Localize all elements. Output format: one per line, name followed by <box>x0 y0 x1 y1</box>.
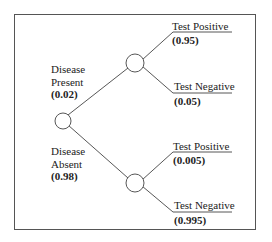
branch-lower-negative-line <box>142 186 173 212</box>
disease-present-line1: Disease <box>51 63 85 76</box>
lower-test-positive-label: Test Positive <box>173 140 229 153</box>
upper-test-negative-label: Test Negative <box>174 80 235 93</box>
upper-test-positive-probability: (0.95) <box>172 34 199 47</box>
disease-absent-line2: Absent <box>51 158 85 171</box>
lower-test-positive-probability: (0.005) <box>173 154 205 167</box>
disease-absent-line1: Disease <box>51 145 85 158</box>
disease-absent-probability: (0.98) <box>51 170 78 182</box>
upper-test-positive-label: Test Positive <box>172 20 228 33</box>
disease-absent-node <box>126 174 144 192</box>
disease-absent-label: Disease Absent (0.98) <box>51 145 85 183</box>
upper-test-positive-probability-value: (0.95) <box>172 34 199 46</box>
disease-present-label: Disease Present (0.02) <box>51 63 85 101</box>
lower-test-positive-probability-value: (0.005) <box>173 154 205 166</box>
upper-test-negative-probability: (0.05) <box>174 95 201 108</box>
disease-present-probability: (0.02) <box>51 88 78 100</box>
branch-upper-positive-line <box>142 32 173 60</box>
upper-test-negative-probability-value: (0.05) <box>174 95 201 107</box>
branch-upper-negative-line <box>142 66 173 93</box>
lower-test-negative-probability: (0.995) <box>174 214 206 227</box>
disease-present-node <box>126 54 144 72</box>
branch-lower-positive-line <box>142 152 173 180</box>
lower-test-negative-probability-value: (0.995) <box>174 214 206 226</box>
root-node <box>55 113 71 129</box>
disease-present-line2: Present <box>51 76 85 89</box>
lower-test-negative-label: Test Negative <box>174 199 235 212</box>
